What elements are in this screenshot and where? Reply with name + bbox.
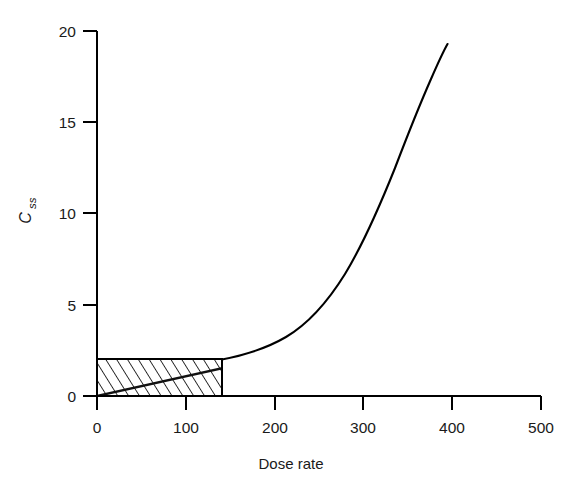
y-axis-title-subscript: ss bbox=[26, 197, 38, 209]
x-tick-label-400: 400 bbox=[439, 419, 465, 436]
y-axis-title-base: C bbox=[17, 212, 34, 224]
x-axis-title: Dose rate bbox=[258, 455, 323, 472]
y-axis: 20 15 10 5 0 C ss bbox=[17, 23, 97, 405]
y-tick-label-15: 15 bbox=[59, 114, 76, 131]
x-tick-label-0: 0 bbox=[93, 419, 102, 436]
x-tick-label-300: 300 bbox=[350, 419, 376, 436]
x-tick-label-100: 100 bbox=[173, 419, 199, 436]
css-dose-curve bbox=[222, 44, 448, 360]
therapeutic-window-hatch-fill bbox=[97, 359, 222, 396]
therapeutic-window-box bbox=[88, 359, 232, 398]
y-tick-label-20: 20 bbox=[59, 23, 77, 40]
curve-path bbox=[222, 44, 448, 360]
x-axis: 0 100 200 300 400 500 Dose rate bbox=[93, 396, 555, 472]
y-tick-label-0: 0 bbox=[67, 388, 76, 405]
chart-figure: 20 15 10 5 0 C ss 0 100 200 300 400 500 … bbox=[0, 0, 582, 488]
y-tick-label-5: 5 bbox=[67, 297, 76, 314]
x-tick-label-200: 200 bbox=[262, 419, 288, 436]
y-tick-label-10: 10 bbox=[59, 205, 77, 222]
x-tick-label-500: 500 bbox=[528, 419, 554, 436]
y-axis-title: C ss bbox=[17, 197, 38, 224]
